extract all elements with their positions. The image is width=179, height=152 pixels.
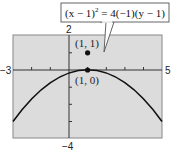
parabola-chart: (1, 1) (1, 0) −3 5 2 −4 (x − 1)2 = 4(−1)…: [0, 0, 179, 152]
y-max-label: 2: [66, 24, 72, 35]
vertex-point: [85, 50, 90, 55]
vertex-label: (1, 1): [75, 37, 99, 50]
x-min-label: −3: [0, 65, 12, 76]
focus-point: [85, 67, 90, 72]
equation-text: (x − 1)2 = 4(−1)(y − 1): [65, 6, 165, 20]
x-max-label: 5: [165, 65, 171, 76]
focus-label: (1, 0): [75, 74, 99, 87]
y-min-label: −4: [62, 141, 74, 152]
